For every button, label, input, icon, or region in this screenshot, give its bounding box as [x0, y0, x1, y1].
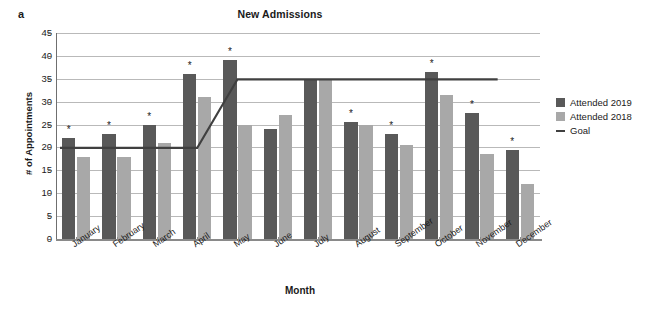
- y-tick-label: 30: [18, 96, 52, 107]
- x-tick-mark: [157, 237, 158, 241]
- y-tick-label: 40: [18, 50, 52, 61]
- y-tick-mark: [48, 193, 52, 194]
- y-tick-label: 5: [18, 210, 52, 221]
- x-tick-mark: [197, 237, 198, 241]
- y-tick-label: 20: [18, 141, 52, 152]
- legend-label: Goal: [570, 125, 590, 136]
- y-tick-label: 0: [18, 233, 52, 244]
- x-tick-mark: [278, 237, 279, 241]
- goal-line: [56, 33, 540, 240]
- y-tick-label: 45: [18, 27, 52, 38]
- y-tick-label: 10: [18, 187, 52, 198]
- line-dash-icon: [556, 130, 565, 132]
- legend-label: Attended 2018: [570, 111, 632, 122]
- x-tick-mark: [520, 237, 521, 241]
- square-dark-icon: [556, 98, 565, 107]
- x-tick-mark: [318, 237, 319, 241]
- y-tick-mark: [48, 216, 52, 217]
- y-tick-label: 35: [18, 73, 52, 84]
- x-tick-mark: [117, 237, 118, 241]
- legend-label: Attended 2019: [570, 97, 632, 108]
- y-tick-mark: [48, 125, 52, 126]
- y-tick-mark: [48, 170, 52, 171]
- square-light-icon: [556, 112, 565, 121]
- y-tick-mark: [48, 56, 52, 57]
- x-axis-tick-labels: JanuaryFebruaryMarchAprilMayJuneJulyAugu…: [56, 241, 556, 287]
- legend-item[interactable]: Goal: [556, 124, 632, 137]
- figure-container: a New Admissions # of Appointments Month…: [0, 0, 664, 310]
- chart-title: New Admissions: [0, 8, 560, 20]
- x-tick-mark: [480, 237, 481, 241]
- y-tick-mark: [48, 79, 52, 80]
- y-tick-mark: [48, 147, 52, 148]
- x-tick-mark: [238, 237, 239, 241]
- legend-item[interactable]: Attended 2019: [556, 96, 632, 109]
- plot-area: **********: [56, 33, 540, 240]
- x-tick-mark: [399, 237, 400, 241]
- y-axis-ticks: 454035302520151050: [0, 33, 52, 240]
- y-tick-label: 15: [18, 164, 52, 175]
- x-tick-mark: [76, 237, 77, 241]
- y-tick-mark: [48, 102, 52, 103]
- x-tick-mark: [359, 237, 360, 241]
- goal-line-path: [60, 79, 498, 148]
- legend-item[interactable]: Attended 2018: [556, 110, 632, 123]
- y-tick-label: 25: [18, 119, 52, 130]
- y-tick-mark: [48, 239, 52, 240]
- legend: Attended 2019Attended 2018Goal: [556, 96, 632, 138]
- x-tick-mark: [439, 237, 440, 241]
- y-tick-mark: [48, 33, 52, 34]
